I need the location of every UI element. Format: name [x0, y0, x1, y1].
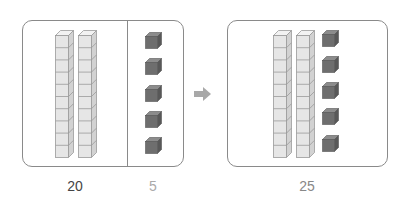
left-ones-cube: [145, 32, 162, 53]
right-tens-rod: [273, 30, 292, 162]
left-ones-cube: [145, 85, 162, 106]
right-ones-cube: [322, 56, 339, 77]
right-tens-rod: [296, 30, 315, 162]
panel-divider: [127, 20, 128, 167]
right-ones-cube: [322, 108, 339, 129]
right-ones-cube: [322, 30, 339, 51]
tens-value-label: 20: [55, 178, 95, 194]
left-ones-cube: [145, 58, 162, 79]
right-arrow-icon: [194, 87, 212, 105]
right-ones-cube: [322, 135, 339, 156]
left-tens-rod: [55, 30, 74, 162]
total-value-label: 25: [287, 178, 327, 194]
left-ones-cube: [145, 137, 162, 158]
left-tens-rod: [78, 30, 97, 162]
ones-value-label: 5: [133, 178, 173, 194]
left-ones-cube: [145, 111, 162, 132]
right-ones-cube: [322, 82, 339, 103]
